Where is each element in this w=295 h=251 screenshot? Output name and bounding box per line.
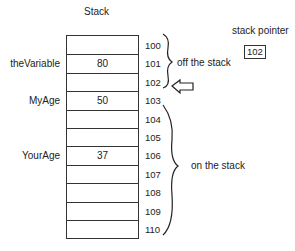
off-stack-label: off the stack bbox=[177, 57, 231, 68]
stack-memory: 80 50 37 bbox=[66, 35, 139, 239]
address-label: 102 bbox=[145, 77, 161, 88]
arrow-left-icon bbox=[172, 80, 193, 93]
stack-cell: 50 bbox=[67, 91, 138, 109]
stack-cell: 37 bbox=[67, 146, 138, 164]
stack-cell bbox=[67, 36, 138, 54]
address-label: 104 bbox=[145, 114, 161, 125]
address-label: 107 bbox=[145, 169, 161, 180]
variable-label: MyAge bbox=[0, 95, 60, 106]
stack-cell bbox=[67, 220, 138, 238]
stack-cell bbox=[67, 110, 138, 128]
address-label: 109 bbox=[145, 206, 161, 217]
stack-cell bbox=[67, 128, 138, 146]
address-label: 108 bbox=[145, 187, 161, 198]
address-label: 101 bbox=[145, 58, 161, 69]
diagram-title: Stack bbox=[84, 6, 109, 17]
address-label: 110 bbox=[145, 224, 160, 235]
variable-label: YourAge bbox=[0, 150, 60, 161]
stack-cell bbox=[67, 202, 138, 220]
address-label: 103 bbox=[145, 95, 161, 106]
stack-cell bbox=[67, 73, 138, 91]
stack-cell bbox=[67, 183, 138, 201]
address-label: 105 bbox=[145, 132, 161, 143]
stack-cell: 80 bbox=[67, 54, 138, 72]
address-label: 106 bbox=[145, 150, 161, 161]
variable-label: theVariable bbox=[0, 58, 60, 69]
stack-pointer-label: stack pointer bbox=[232, 25, 289, 36]
stack-pointer-value: 102 bbox=[244, 45, 266, 59]
on-stack-label: on the stack bbox=[191, 160, 245, 171]
address-label: 100 bbox=[145, 40, 161, 51]
stack-cell bbox=[67, 165, 138, 183]
